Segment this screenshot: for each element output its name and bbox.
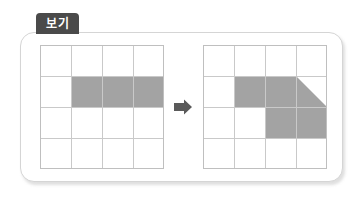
figure-panel bbox=[20, 32, 343, 182]
transform-arrow-icon bbox=[173, 97, 193, 117]
after-grid-lines bbox=[203, 45, 327, 169]
before-grid-lines bbox=[40, 45, 164, 169]
figure-label-tab: 보기 bbox=[36, 13, 79, 34]
before-grid bbox=[40, 45, 164, 169]
figure-label-text: 보기 bbox=[46, 18, 69, 30]
after-grid bbox=[203, 45, 327, 169]
before-grid-shape bbox=[71, 76, 164, 107]
